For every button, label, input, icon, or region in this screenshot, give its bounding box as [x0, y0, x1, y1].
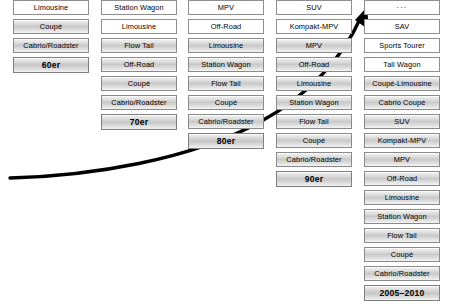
column-items: SUVKompakt-MPVMPVOff-RoadLimousineStatio…: [276, 0, 352, 171]
decade-column-2005-2010: ...SAVSports TourerTall WagonCoupé-Limou…: [364, 0, 440, 301]
decade-label: 2005–2010: [364, 285, 440, 301]
body-style-box: Station Wagon: [364, 209, 440, 224]
decade-label: 80er: [188, 133, 264, 149]
body-style-box: Sports Tourer: [364, 38, 440, 53]
body-style-box: Tall Wagon: [364, 57, 440, 72]
body-style-box: Station Wagon: [188, 57, 264, 72]
decade-column-90er: SUVKompakt-MPVMPVOff-RoadLimousineStatio…: [276, 0, 352, 187]
body-style-box: SUV: [276, 0, 352, 15]
column-items: Station WagonLimousineFlow TailOff-RoadC…: [101, 0, 177, 114]
decade-column-80er: MPVOff-RoadLimousineStation WagonFlow Ta…: [188, 0, 264, 149]
body-style-box: Off-Road: [101, 57, 177, 72]
body-style-box: Coupé: [364, 247, 440, 262]
body-style-box: Off-Road: [364, 171, 440, 186]
decade-label: 70er: [101, 114, 177, 130]
body-style-box: Station Wagon: [276, 95, 352, 110]
body-style-box: Cabrio/Roadster: [13, 38, 89, 53]
body-style-box: Flow Tail: [276, 114, 352, 129]
body-style-box: Limousine: [188, 38, 264, 53]
body-style-box: Limousine: [364, 190, 440, 205]
body-style-box: Flow Tail: [188, 76, 264, 91]
body-style-box: Coupé: [276, 133, 352, 148]
body-style-box: Coupé: [13, 19, 89, 34]
body-style-box: Cabrio/Roadster: [188, 114, 264, 129]
body-style-box: Kompakt-MPV: [276, 19, 352, 34]
body-style-box: Kompakt-MPV: [364, 133, 440, 148]
column-items: MPVOff-RoadLimousineStation WagonFlow Ta…: [188, 0, 264, 133]
decade-label: 60er: [13, 57, 89, 73]
body-style-box: Flow Tail: [364, 228, 440, 243]
body-style-box: Coupé: [101, 76, 177, 91]
body-style-box: Off-Road: [188, 19, 264, 34]
body-style-box: ...: [364, 0, 440, 15]
body-style-box: MPV: [188, 0, 264, 15]
body-style-box: Off-Road: [276, 57, 352, 72]
body-style-box: Cabrio Coupé: [364, 95, 440, 110]
body-style-box: MPV: [276, 38, 352, 53]
decade-column-70er: Station WagonLimousineFlow TailOff-RoadC…: [101, 0, 177, 130]
body-style-proliferation-diagram: LimousineCoupéCabrio/Roadster 60er Stati…: [0, 0, 458, 308]
body-style-box: Cabrio/Roadster: [276, 152, 352, 167]
body-style-box: Flow Tail: [101, 38, 177, 53]
body-style-box: Station Wagon: [101, 0, 177, 15]
column-items: ...SAVSports TourerTall WagonCoupé-Limou…: [364, 0, 440, 285]
body-style-box: Cabrio/Roadster: [101, 95, 177, 110]
body-style-box: Cabrio/Roadster: [364, 266, 440, 281]
body-style-box: SAV: [364, 19, 440, 34]
body-style-box: MPV: [364, 152, 440, 167]
body-style-box: Limousine: [276, 76, 352, 91]
body-style-box: Limousine: [101, 19, 177, 34]
decade-label: 90er: [276, 171, 352, 187]
column-items: LimousineCoupéCabrio/Roadster: [13, 0, 89, 57]
body-style-box: SUV: [364, 114, 440, 129]
body-style-box: Coupé: [188, 95, 264, 110]
body-style-box: Limousine: [13, 0, 89, 15]
body-style-box: Coupé-Limousine: [364, 76, 440, 91]
decade-column-60er: LimousineCoupéCabrio/Roadster 60er: [13, 0, 89, 73]
